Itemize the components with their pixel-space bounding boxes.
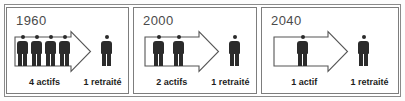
figure-head: [362, 35, 366, 39]
figure-leg-left: [60, 52, 64, 66]
retirees-caption: 1 retraité: [205, 77, 256, 88]
figure-leg-right: [65, 52, 69, 66]
figure-leg-left: [154, 52, 158, 66]
figure-leg-right: [159, 52, 163, 66]
figure-leg-left: [230, 52, 234, 66]
worker-figure-icon: [297, 35, 308, 66]
figure-leg-left: [298, 52, 302, 66]
figure-head: [63, 35, 67, 39]
workers-arrow-icon: [273, 30, 349, 73]
panel-captions: 1 actif 1 retraité: [262, 74, 398, 88]
figure-head: [301, 35, 305, 39]
workers-caption: 1 actif: [262, 77, 346, 88]
workers-caption: 4 actifs: [7, 77, 82, 88]
retirees-group: [358, 35, 369, 66]
figure-leg-right: [51, 52, 55, 66]
panel-list: 1960: [4, 4, 401, 97]
worker-figure-icon: [31, 35, 42, 66]
figure-leg-right: [303, 52, 307, 66]
panel-year-label: 1960: [16, 13, 47, 28]
figure-leg-left: [46, 52, 50, 66]
panel-captions: 2 actifs 1 retraité: [134, 74, 256, 88]
worker-figure-icon: [173, 35, 184, 66]
retiree-figure-icon: [101, 35, 112, 66]
figure-leg-left: [32, 52, 36, 66]
figure-head: [177, 35, 181, 39]
figure-leg-right: [107, 52, 111, 66]
figure-leg-left: [174, 52, 178, 66]
figure-head: [233, 35, 237, 39]
worker-figure-icon: [17, 35, 28, 66]
workers-group: [153, 35, 184, 66]
pension-ratio-figure: 1960: [0, 0, 405, 101]
panel-year-label: 2040: [271, 13, 302, 28]
panel-stage: [134, 29, 256, 74]
figure-leg-right: [179, 52, 183, 66]
panel-2000: 2000: [133, 7, 257, 94]
panel-captions: 4 actifs 1 retraité: [7, 74, 128, 88]
retirees-group: [101, 35, 112, 66]
figure-head: [21, 35, 25, 39]
figure-head: [49, 35, 53, 39]
figure-head: [157, 35, 161, 39]
figure-leg-left: [18, 52, 22, 66]
workers-caption: 2 actifs: [134, 77, 210, 88]
worker-figure-icon: [45, 35, 56, 66]
retirees-group: [229, 35, 240, 66]
panel-2040: 2040: [261, 7, 399, 94]
figure-leg-right: [37, 52, 41, 66]
worker-figure-icon: [59, 35, 70, 66]
panel-year-label: 2000: [143, 13, 174, 28]
workers-group: [17, 35, 70, 66]
worker-figure-icon: [153, 35, 164, 66]
figure-head: [35, 35, 39, 39]
workers-group: [297, 35, 308, 66]
figure-leg-left: [102, 52, 106, 66]
figure-leg-right: [364, 52, 368, 66]
panel-stage: [7, 29, 128, 74]
panel-stage: [262, 29, 398, 74]
retiree-figure-icon: [358, 35, 369, 66]
retirees-caption: 1 retraité: [341, 77, 398, 88]
figure-head: [105, 35, 109, 39]
retiree-figure-icon: [229, 35, 240, 66]
figure-leg-right: [235, 52, 239, 66]
figure-leg-left: [359, 52, 363, 66]
retirees-caption: 1 retraité: [77, 77, 128, 88]
panel-1960: 1960: [6, 7, 129, 94]
figure-leg-right: [23, 52, 27, 66]
